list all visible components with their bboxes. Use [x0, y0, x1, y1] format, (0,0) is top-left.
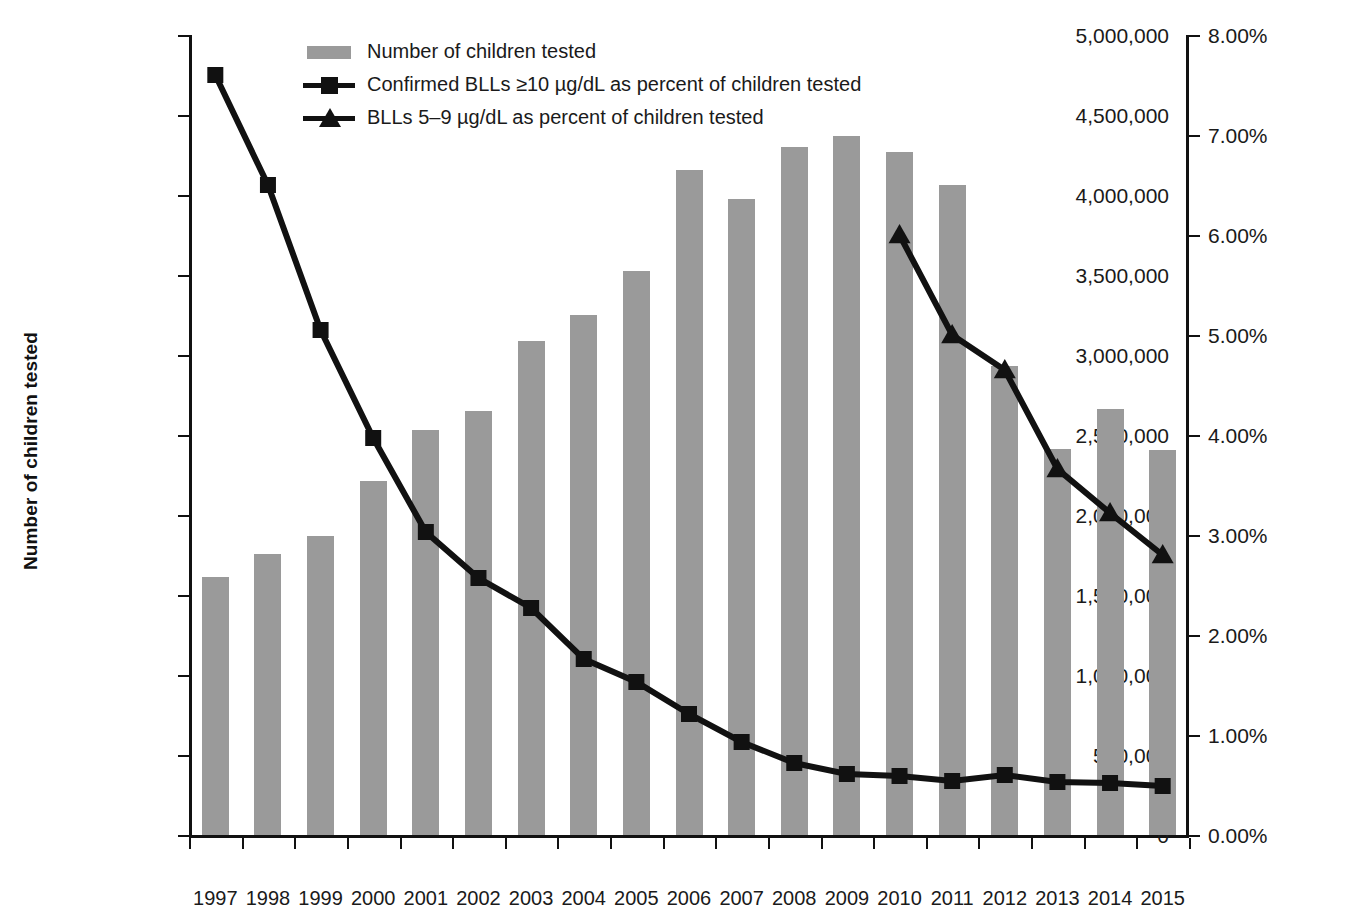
y-axis-left-tick [178, 435, 189, 437]
line-path [215, 75, 1162, 786]
y-axis-right-label: 7.00% [1208, 125, 1268, 146]
x-axis-label: 2011 [931, 887, 974, 910]
y-axis-right-label: 5.00% [1208, 325, 1268, 346]
y-axis-right-tick [1189, 335, 1200, 337]
marker-square [418, 524, 434, 540]
marker-square [997, 767, 1013, 783]
legend-item[interactable]: Number of children tested [303, 35, 943, 68]
legend-line-square-icon [303, 72, 355, 98]
marker-triangle [889, 224, 911, 243]
x-axis-tick [1031, 838, 1033, 849]
marker-square [576, 651, 592, 667]
y-axis-right-tick [1189, 735, 1200, 737]
y-axis-left-tick [178, 275, 189, 277]
y-axis-left-tick [178, 35, 189, 37]
y-axis-left-tick [178, 195, 189, 197]
y-axis-right-label: 6.00% [1208, 225, 1268, 246]
marker-square [470, 570, 486, 586]
line-path [900, 235, 1163, 555]
x-axis-label: 2013 [1035, 887, 1080, 910]
marker-square [839, 766, 855, 782]
y-axis-right-tick [1189, 435, 1200, 437]
marker-square [786, 755, 802, 771]
x-axis-label: 2010 [877, 887, 922, 910]
bar-swatch-icon [307, 46, 351, 59]
plot-area: 0500,0001,000,0001,500,0002,000,0002,500… [189, 35, 1189, 838]
x-axis-tick [873, 838, 875, 849]
y-axis-left-tick [178, 515, 189, 517]
y-axis-left-tick [178, 595, 189, 597]
legend-label: Number of children tested [367, 40, 596, 63]
x-axis-label: 2002 [456, 887, 501, 910]
y-axis-right-tick [1189, 635, 1200, 637]
chart-legend: Number of children testedConfirmed BLLs … [303, 35, 943, 134]
x-axis-tick [926, 838, 928, 849]
x-axis-tick [1189, 838, 1191, 849]
marker-square [944, 773, 960, 789]
x-axis-label: 2008 [772, 887, 817, 910]
x-axis-label: 2014 [1088, 887, 1133, 910]
y-axis-right-tick [1189, 35, 1200, 37]
line-series-layer [189, 35, 1189, 838]
x-axis-tick [1136, 838, 1138, 849]
legend-item[interactable]: BLLs 5–9 µg/dL as percent of children te… [303, 101, 943, 134]
x-axis-label: 2001 [404, 887, 449, 910]
marker-triangle [941, 324, 963, 343]
legend-square-marker-icon [321, 77, 338, 94]
x-axis-label: 2006 [667, 887, 712, 910]
legend-line-triangle-icon [303, 105, 355, 131]
x-axis-tick [610, 838, 612, 849]
marker-square [1102, 775, 1118, 791]
x-axis-tick [715, 838, 717, 849]
y-axis-right-label: 1.00% [1208, 725, 1268, 746]
legend-label: Confirmed BLLs ≥10 µg/dL as percent of c… [367, 73, 861, 96]
legend-triangle-marker-icon [319, 108, 341, 127]
marker-square [628, 674, 644, 690]
y-axis-right-tick [1189, 835, 1200, 837]
y-axis-right-label: 2.00% [1208, 625, 1268, 646]
marker-square [1049, 774, 1065, 790]
y-axis-right-label: 4.00% [1208, 425, 1268, 446]
x-axis-tick [768, 838, 770, 849]
y-axis-left-tick [178, 355, 189, 357]
marker-square [523, 600, 539, 616]
y-axis-right-tick [1189, 535, 1200, 537]
marker-square [207, 67, 223, 83]
y-axis-right-tick [1189, 235, 1200, 237]
x-axis-label: 2015 [1140, 887, 1185, 910]
y-axis-right-label: 0.00% [1208, 825, 1268, 846]
y-axis-left-tick [178, 755, 189, 757]
x-axis-tick [663, 838, 665, 849]
x-axis-tick [242, 838, 244, 849]
chart-canvas: Number of children tested Blood lead lev… [0, 0, 1364, 910]
marker-square [1155, 778, 1171, 794]
x-axis-label: 2000 [351, 887, 396, 910]
legend-item[interactable]: Confirmed BLLs ≥10 µg/dL as percent of c… [303, 68, 943, 101]
marker-square [365, 430, 381, 446]
y-axis-right-tick [1189, 135, 1200, 137]
marker-square [260, 177, 276, 193]
x-axis-tick [400, 838, 402, 849]
x-axis-label: 2012 [983, 887, 1028, 910]
marker-square [681, 706, 697, 722]
x-axis-label: 2003 [509, 887, 554, 910]
y-axis-right-label: 8.00% [1208, 25, 1268, 46]
y-axis-left-tick [178, 115, 189, 117]
x-axis-label: 1997 [193, 887, 238, 910]
x-axis-label: 2004 [561, 887, 606, 910]
x-axis-tick [978, 838, 980, 849]
x-axis-tick [1084, 838, 1086, 849]
x-axis-tick [294, 838, 296, 849]
x-axis-label: 2005 [614, 887, 659, 910]
x-axis-label: 1999 [298, 887, 343, 910]
x-axis-label: 2009 [825, 887, 870, 910]
x-axis-label: 1998 [246, 887, 291, 910]
x-axis-label: 2007 [719, 887, 764, 910]
marker-square [734, 734, 750, 750]
y-axis-left-title: Number of children tested [20, 291, 42, 611]
x-axis-tick [557, 838, 559, 849]
legend-swatch-icon [303, 39, 355, 65]
x-axis-tick [189, 838, 191, 849]
y-axis-left-tick [178, 675, 189, 677]
legend-label: BLLs 5–9 µg/dL as percent of children te… [367, 106, 764, 129]
